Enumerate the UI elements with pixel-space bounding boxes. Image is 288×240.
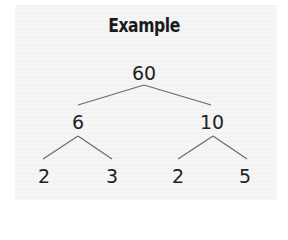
node-root: 60 [124,63,164,83]
edge-6-2 [43,136,78,159]
node-level2-3: 2 [158,166,198,186]
edge-60-6 [78,85,144,105]
edge-6-3 [78,136,112,159]
node-level1-right: 10 [192,112,232,132]
node-level1-left: 6 [58,112,98,132]
edge-10-2 [178,136,213,159]
edge-60-10 [144,85,211,105]
node-level2-2: 3 [92,166,132,186]
edge-10-5 [213,136,247,159]
node-level2-4: 5 [225,166,265,186]
node-level2-1: 2 [24,166,64,186]
